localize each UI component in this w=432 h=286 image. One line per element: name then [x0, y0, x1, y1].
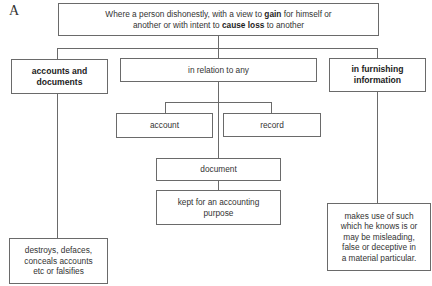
account-label: account [150, 120, 179, 131]
record-label: record [260, 120, 284, 131]
root-line-2: another or with intent to cause loss to … [105, 20, 331, 31]
right-action-line-4: false or deceptive in [341, 242, 418, 253]
panel-label: A [9, 3, 19, 19]
accounts-and-documents-box: accounts and documents [11, 59, 108, 94]
right-action-line-2: which he knows is or [341, 221, 418, 232]
in-furnishing-information-box: in furnishing information [329, 58, 426, 92]
connector-left-down [57, 93, 58, 239]
gain-keyword: gain [264, 9, 281, 19]
left-title-line-2: documents [32, 77, 87, 88]
left-action-line-1: destroys, defaces, [24, 245, 92, 256]
connector-middle-spine [218, 81, 219, 159]
connector-right-down [377, 91, 378, 204]
connector-root-stem [218, 35, 219, 49]
left-action-line-3: etc or falsifies [24, 266, 92, 277]
left-action-line-2: conceals accounts [24, 256, 92, 267]
makes-use-of-such-box: makes use of such which he knows is or m… [327, 203, 431, 271]
cause-loss-keyword: cause loss [222, 20, 264, 30]
document-box: document [156, 158, 281, 181]
document-label: document [200, 164, 236, 175]
root-line-1: Where a person dishonestly, with a view … [105, 9, 331, 20]
purpose-line-2: purpose [178, 208, 260, 219]
in-relation-to-any-box: in relation to any [120, 58, 317, 82]
right-action-line-3: may be misleading, [341, 232, 418, 243]
accounting-purpose-box: kept for an accounting purpose [156, 190, 281, 225]
record-box: record [223, 113, 321, 137]
purpose-line-1: kept for an accounting [178, 197, 260, 208]
connector-account-record-bar [165, 102, 272, 103]
right-title-line-2: information [351, 75, 403, 86]
right-action-line-1: makes use of such [341, 211, 418, 222]
destroys-defaces-box: destroys, defaces, conceals accounts etc… [9, 238, 108, 284]
right-title-line-1: in furnishing [351, 64, 403, 75]
right-action-line-5: a material particular. [341, 253, 418, 264]
account-box: account [116, 113, 213, 138]
left-title-line-1: accounts and [32, 66, 87, 77]
middle-title: in relation to any [188, 65, 249, 76]
root-condition-box: Where a person dishonestly, with a view … [58, 3, 379, 36]
